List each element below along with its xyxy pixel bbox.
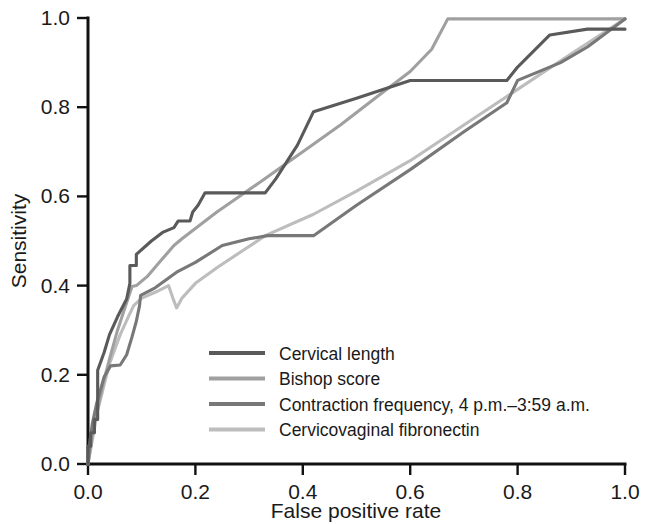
legend-label-2: Contraction frequency, 4 p.m.–3:59 a.m. xyxy=(279,395,590,415)
y-tick-label-3: 0.6 xyxy=(41,184,70,207)
legend-label-0: Cervical length xyxy=(279,344,395,364)
y-tick-label-2: 0.4 xyxy=(41,274,71,297)
x-tick-label-0: 0.0 xyxy=(73,480,102,503)
y-tick-label-4: 0.8 xyxy=(41,95,70,118)
roc-curve-figure: 0.00.20.40.60.81.0 0.00.20.40.60.81.0 Fa… xyxy=(0,0,648,524)
y-tick-label-1: 0.2 xyxy=(41,363,70,386)
legend: Cervical lengthBishop scoreContraction f… xyxy=(209,344,590,441)
y-tick-label-5: 1.0 xyxy=(41,6,70,29)
x-tick-label-1: 0.2 xyxy=(181,480,210,503)
x-axis-ticks xyxy=(88,464,625,475)
y-tick-label-0: 0.0 xyxy=(41,452,70,475)
x-axis-title: False positive rate xyxy=(271,499,441,522)
roc-plot-canvas: 0.00.20.40.60.81.0 0.00.20.40.60.81.0 Fa… xyxy=(0,0,648,524)
legend-label-3: Cervicovaginal fibronectin xyxy=(279,420,479,440)
x-tick-label-4: 0.8 xyxy=(503,480,532,503)
y-axis-ticks xyxy=(77,18,88,464)
legend-label-1: Bishop score xyxy=(279,369,380,389)
y-axis-tick-labels: 0.00.20.40.60.81.0 xyxy=(41,6,71,475)
x-tick-label-5: 1.0 xyxy=(610,480,639,503)
y-axis-title: Sensitivity xyxy=(7,193,30,288)
